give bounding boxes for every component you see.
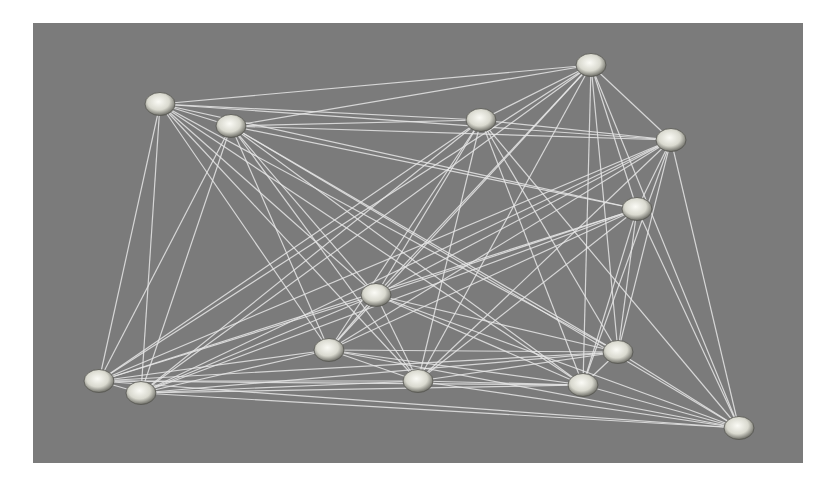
node-I[interactable] <box>84 370 114 393</box>
edge-C-M <box>481 120 618 352</box>
edge-B-C <box>231 120 481 126</box>
node-B[interactable] <box>216 115 246 138</box>
node-D[interactable] <box>576 54 606 77</box>
edge-F-N <box>637 209 739 428</box>
node-F[interactable] <box>622 198 652 221</box>
edge-J-M <box>141 352 618 393</box>
edge-L-N <box>583 385 739 428</box>
edge-D-N <box>591 65 739 428</box>
edge-G-M <box>376 295 618 352</box>
network-graph <box>0 0 834 484</box>
node-G[interactable] <box>361 284 391 307</box>
node-M[interactable] <box>603 341 633 364</box>
node-K[interactable] <box>403 370 433 393</box>
edge-B-L <box>231 126 583 385</box>
edge-H-L <box>329 350 583 385</box>
node-E[interactable] <box>656 129 686 152</box>
edge-G-N <box>376 295 739 428</box>
edge-A-D <box>160 65 591 104</box>
edge-E-K <box>418 140 671 381</box>
node-N[interactable] <box>724 417 754 440</box>
node-H[interactable] <box>314 339 344 362</box>
edge-E-J <box>141 140 671 393</box>
edge-A-C <box>160 104 481 120</box>
edge-C-L <box>481 120 583 385</box>
node-L[interactable] <box>568 374 598 397</box>
node-C[interactable] <box>466 109 496 132</box>
edge-E-N <box>671 140 739 428</box>
node-J[interactable] <box>126 382 156 405</box>
edge-H-M <box>329 350 618 352</box>
edge-C-K <box>418 120 481 381</box>
node-A[interactable] <box>145 93 175 116</box>
edge-B-I <box>99 126 231 381</box>
edge-E-H <box>329 140 671 350</box>
